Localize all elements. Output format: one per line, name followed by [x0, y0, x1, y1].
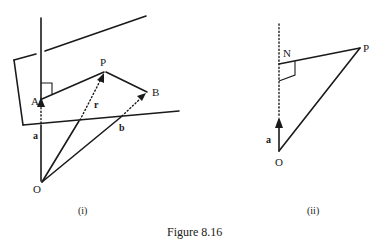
figure-8-16: A P B O a r b (i) N P O a (ii) Figure 8.…	[0, 0, 382, 244]
line-a-to-p	[42, 72, 104, 99]
vector-b-dotted	[122, 99, 140, 116]
label-point-o-ii: O	[275, 156, 283, 168]
line-o-to-b-base	[42, 117, 121, 182]
label-vector-a: a	[33, 130, 38, 141]
label-point-p: P	[100, 56, 106, 68]
plane-top-edge-left	[14, 54, 36, 60]
panel-i: A P B O a r b (i)	[14, 16, 179, 217]
label-vector-b: b	[119, 122, 125, 133]
plane-left-edge	[14, 60, 23, 125]
line-o-to-r-base	[42, 121, 79, 182]
right-angle-marker-a	[41, 83, 52, 94]
arrowhead-a-ii	[275, 117, 283, 128]
label-point-n: N	[283, 47, 291, 59]
line-n-to-p	[279, 48, 360, 64]
panel-ii-label: (ii)	[307, 205, 319, 217]
line-o-to-p	[279, 48, 360, 151]
panel-ii: N P O a (ii)	[266, 24, 369, 217]
label-point-b: B	[152, 86, 159, 98]
plane-bottom-edge	[23, 111, 179, 125]
label-point-p-ii: P	[363, 42, 369, 54]
label-point-a: A	[31, 95, 39, 107]
label-vector-a-ii: a	[266, 134, 271, 145]
label-point-o: O	[33, 183, 41, 195]
figure-caption: Figure 8.16	[167, 225, 222, 239]
plane-top-edge-right	[45, 16, 146, 51]
label-vector-r: r	[94, 99, 99, 110]
panel-i-label: (i)	[78, 205, 87, 217]
line-p-to-b	[106, 72, 147, 92]
